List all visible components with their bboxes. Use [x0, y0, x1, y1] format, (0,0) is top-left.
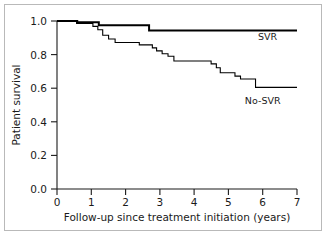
- x-tick-label: 5: [225, 196, 232, 208]
- x-tick-label: 2: [122, 196, 129, 208]
- y-tick-label: 0.6: [30, 82, 47, 94]
- y-tick-label: 0.4: [30, 116, 47, 128]
- figure-container: 1.0 0.8 0.6 0.4 0.2 0.0 0 1 2 3 4 5 6: [0, 0, 326, 235]
- survival-chart: 1.0 0.8 0.6 0.4 0.2 0.0 0 1 2 3 4 5 6: [0, 0, 326, 235]
- y-tick-label: 1.0: [30, 15, 47, 27]
- x-tick-label: 1: [88, 196, 95, 208]
- y-axis-title: Patient survival: [10, 64, 22, 145]
- x-tick-label: 0: [54, 196, 61, 208]
- x-tick-label: 4: [191, 196, 198, 208]
- x-axis-ticks: [57, 189, 297, 195]
- y-axis-ticks: [51, 21, 57, 189]
- series-label-svr: SVR: [258, 31, 278, 42]
- x-tick-label: 7: [294, 196, 301, 208]
- y-tick-label: 0.2: [30, 149, 47, 161]
- x-tick-label: 3: [157, 196, 164, 208]
- y-axis-tick-labels: 1.0 0.8 0.6 0.4 0.2 0.0: [30, 15, 47, 195]
- y-tick-label: 0.0: [30, 183, 47, 195]
- series-label-no-svr: No-SVR: [245, 95, 281, 106]
- x-axis-title: Follow-up since treatment initiation (ye…: [64, 211, 291, 223]
- x-axis-tick-labels: 0 1 2 3 4 5 6 7: [54, 196, 301, 208]
- y-tick-label: 0.8: [30, 49, 47, 61]
- x-tick-label: 6: [259, 196, 266, 208]
